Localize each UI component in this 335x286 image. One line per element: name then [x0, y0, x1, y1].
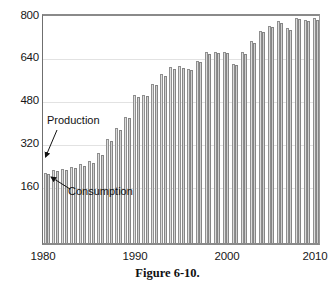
- bar-consumption: [307, 21, 310, 243]
- bar-consumption: [253, 43, 256, 243]
- y-tick-800: 800: [3, 10, 39, 22]
- annotation-production: Production: [47, 114, 100, 126]
- y-tick-640: 640: [3, 52, 39, 64]
- bar-consumption: [155, 85, 158, 243]
- bar-consumption: [164, 76, 167, 243]
- bar-consumption: [190, 70, 193, 243]
- bar-consumption: [289, 30, 292, 243]
- bar-consumption: [146, 96, 149, 243]
- figure-container: 800 640 480 320 160 Production Consumpti…: [0, 0, 335, 286]
- bar-consumption: [271, 27, 274, 243]
- x-tick-1980: 1980: [23, 250, 63, 262]
- y-tick-480: 480: [3, 95, 39, 107]
- bar-consumption: [208, 54, 211, 243]
- plot-area: [42, 14, 320, 245]
- x-tick-1990: 1990: [115, 250, 155, 262]
- bar-consumption: [298, 19, 301, 243]
- x-tick-2000: 2000: [207, 250, 247, 262]
- bar-consumption: [244, 54, 247, 243]
- bar-consumption: [137, 97, 140, 243]
- figure-caption: Figure 6-10.: [0, 266, 335, 281]
- x-tick-2010: 2010: [295, 250, 335, 262]
- bar-consumption: [316, 20, 319, 243]
- bar-consumption: [101, 155, 104, 243]
- bar-series-group: [43, 16, 319, 243]
- bar-consumption: [65, 170, 68, 243]
- bar-consumption: [217, 53, 220, 243]
- bar-consumption: [92, 163, 95, 243]
- bar-consumption: [226, 53, 229, 243]
- y-tick-320: 320: [3, 138, 39, 150]
- bar-consumption: [83, 166, 86, 243]
- bar-consumption: [262, 32, 265, 243]
- bar-consumption: [56, 171, 59, 243]
- bar-consumption: [74, 168, 77, 243]
- annotation-consumption: Consumption: [68, 185, 133, 197]
- bar-consumption: [47, 174, 50, 243]
- bar-consumption: [182, 68, 185, 243]
- y-tick-160: 160: [3, 181, 39, 193]
- bar-consumption: [128, 118, 131, 243]
- bar-consumption: [280, 23, 283, 243]
- bar-consumption: [235, 65, 238, 243]
- bar-consumption: [199, 62, 202, 243]
- bar-consumption: [173, 69, 176, 243]
- y-axis: 800 640 480 320 160: [0, 0, 39, 260]
